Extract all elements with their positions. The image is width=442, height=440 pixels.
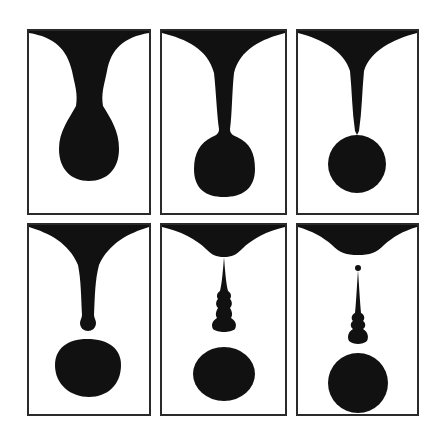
panel-3-near-pinch-off <box>296 29 419 215</box>
panel-6-thread-detached <box>296 223 419 416</box>
panel-1-pendant-drop <box>27 29 151 215</box>
near-pinch-off-illustration <box>298 31 417 213</box>
fluid-funnel-thread <box>29 225 149 331</box>
fluid-reservoir <box>162 225 285 257</box>
main-drop <box>328 135 386 193</box>
satellite-beads-illustration <box>162 225 285 414</box>
thread-detached-illustration <box>298 225 417 414</box>
detached-drop <box>55 339 121 397</box>
main-drop <box>328 353 388 413</box>
beaded-thread <box>348 270 368 344</box>
neck-thinning-illustration <box>162 31 285 213</box>
panel-5-satellite-beads <box>160 223 287 416</box>
main-drop <box>193 347 255 401</box>
beaded-thread <box>212 257 236 332</box>
detached-drop-illustration <box>29 225 149 414</box>
fluid-reservoir <box>298 225 417 255</box>
panel-4-detached-drop <box>27 223 151 416</box>
fluid-funnel <box>29 31 149 181</box>
panel-2-neck-thinning <box>160 29 287 215</box>
fluid-funnel-thread <box>298 31 417 135</box>
pendant-drop-illustration <box>29 31 149 213</box>
fluid-funnel <box>162 31 285 197</box>
